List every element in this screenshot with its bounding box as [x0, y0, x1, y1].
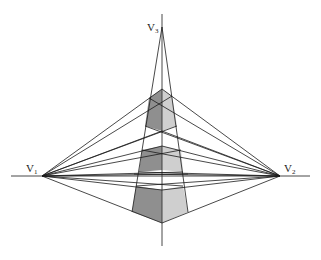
perspective-diagram: V 1 V 2 V 3 [0, 0, 321, 260]
svg-text:2: 2 [292, 168, 296, 176]
svg-text:V: V [284, 162, 292, 174]
label-v2: V 2 [284, 162, 296, 176]
svg-text:V: V [26, 162, 34, 174]
svg-text:3: 3 [155, 27, 159, 35]
label-v1: V 1 [26, 162, 38, 176]
svg-text:1: 1 [34, 168, 38, 176]
lower-block [132, 186, 188, 223]
label-v3: V 3 [147, 21, 159, 35]
svg-text:V: V [147, 21, 155, 33]
